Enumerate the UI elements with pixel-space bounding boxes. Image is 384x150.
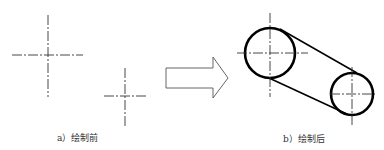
centerline-small-before [104,68,148,128]
centerline-small-after [330,67,375,126]
figure-canvas [0,0,384,150]
caption-before: a）绘制前 [57,131,98,144]
caption-after: b）绘制后 [283,132,325,145]
right-arrow-icon [166,57,228,98]
centerline-large-before [12,15,83,97]
centerline-large-after [237,13,308,97]
